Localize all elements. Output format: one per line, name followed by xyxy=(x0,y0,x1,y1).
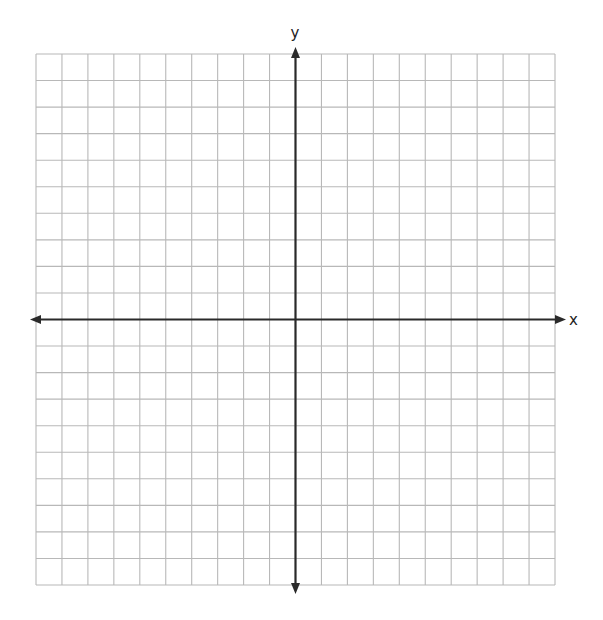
axes xyxy=(30,47,566,594)
y-axis-up-arrow-icon xyxy=(291,47,300,58)
x-axis-label: x xyxy=(569,311,578,329)
y-axis-down-arrow-icon xyxy=(291,583,300,594)
x-axis-right-arrow-icon xyxy=(555,315,566,324)
coordinate-plane: x y xyxy=(0,0,603,620)
y-axis-label: y xyxy=(291,24,300,42)
